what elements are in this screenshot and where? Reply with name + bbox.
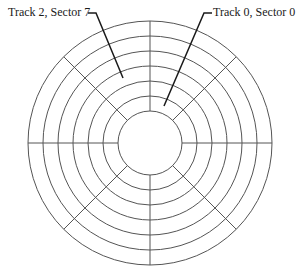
- sector-divider-7: [173, 57, 237, 121]
- sector-divider-3: [64, 166, 128, 230]
- disk-diagram: [0, 0, 297, 276]
- label-track0-sector0: Track 0, Sector 0: [213, 6, 295, 18]
- track-circle-0: [118, 111, 182, 175]
- sector-dividers: [28, 21, 272, 265]
- sector-divider-1: [173, 166, 237, 230]
- label-track2-sector7: Track 2, Sector 7: [8, 6, 90, 18]
